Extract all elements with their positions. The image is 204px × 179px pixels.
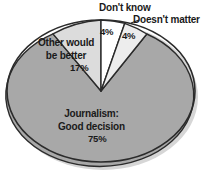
slice-label-good-decision-line1: Journalism: xyxy=(64,108,118,119)
pie-chart: Don't know Doesn't matter 4% 4% Other wo… xyxy=(0,0,204,179)
slice-value-doesnt-matter: 4% xyxy=(122,31,135,42)
slice-value-other-better: 17% xyxy=(70,63,88,74)
slice-label-good-decision: Journalism: Good decision xyxy=(58,108,125,133)
slice-label-dont-know: Don't know xyxy=(99,2,150,13)
slice-value-good-decision: 75% xyxy=(88,134,106,145)
slice-label-good-decision-line2: Good decision xyxy=(58,121,125,132)
slice-label-other-better: Other would be better xyxy=(38,37,94,62)
slice-label-doesnt-matter: Doesn't matter xyxy=(133,14,200,25)
slice-value-dont-know: 4% xyxy=(100,27,113,38)
slice-label-other-better-line2: be better xyxy=(46,50,86,61)
slice-label-other-better-line1: Other would xyxy=(38,37,94,48)
